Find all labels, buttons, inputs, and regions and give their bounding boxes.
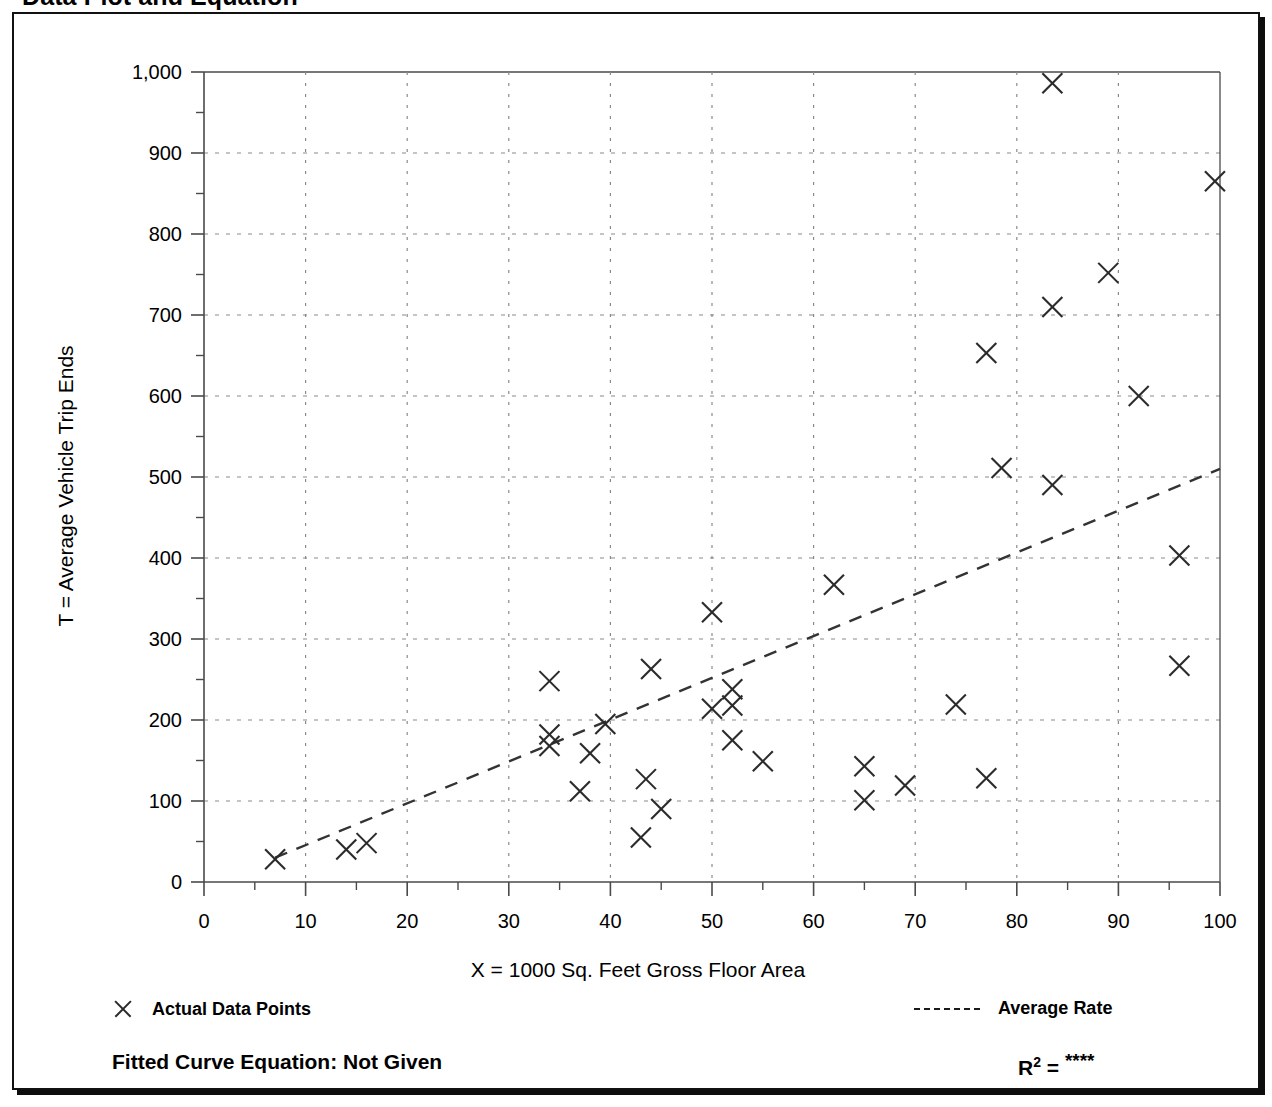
svg-text:900: 900 — [149, 142, 182, 164]
data-point-marker — [702, 602, 722, 622]
svg-text:700: 700 — [149, 304, 182, 326]
axis-ticks — [191, 72, 1220, 896]
plot-area: 01002003004005006007008009001,000 010203… — [14, 14, 1262, 1092]
y-axis-title: T = Average Vehicle Trip Ends — [54, 206, 78, 766]
data-point-marker — [539, 736, 559, 756]
data-point-marker — [1042, 475, 1062, 495]
data-point-marker — [1169, 656, 1189, 676]
scatter-plot-svg: 01002003004005006007008009001,000 010203… — [14, 14, 1262, 1092]
equation-row: Fitted Curve Equation: Not Given R2 = **… — [14, 1050, 1262, 1090]
svg-text:600: 600 — [149, 385, 182, 407]
svg-text:500: 500 — [149, 466, 182, 488]
average-rate-trendline — [275, 469, 1220, 858]
r-squared-exponent: 2 — [1033, 1054, 1041, 1070]
svg-text:1,000: 1,000 — [132, 61, 182, 83]
dashed-line-icon — [914, 1008, 980, 1010]
data-point-marker — [580, 743, 600, 763]
data-point-markers — [265, 73, 1225, 869]
data-point-marker — [854, 790, 874, 810]
legend-item-average-rate: Average Rate — [914, 998, 1112, 1019]
data-point-marker — [631, 827, 651, 847]
data-point-marker — [895, 776, 915, 796]
svg-text:80: 80 — [1006, 910, 1028, 932]
svg-text:100: 100 — [1203, 910, 1236, 932]
svg-text:50: 50 — [701, 910, 723, 932]
data-point-marker — [1042, 297, 1062, 317]
svg-text:70: 70 — [904, 910, 926, 932]
data-point-marker — [824, 575, 844, 595]
r-squared-stars: **** — [1065, 1050, 1095, 1071]
x-axis-title: X = 1000 Sq. Feet Gross Floor Area — [14, 958, 1262, 982]
figure-frame: 01002003004005006007008009001,000 010203… — [12, 12, 1260, 1090]
r-squared-equals: = — [1041, 1056, 1065, 1079]
legend-label-average-rate: Average Rate — [998, 998, 1112, 1019]
data-point-marker — [722, 679, 742, 699]
data-point-marker — [539, 671, 559, 691]
r-squared-value: R2 = **** — [1018, 1050, 1094, 1080]
data-point-marker — [641, 659, 661, 679]
svg-text:0: 0 — [171, 871, 182, 893]
gridlines — [204, 72, 1220, 882]
data-point-marker — [539, 725, 559, 745]
svg-text:400: 400 — [149, 547, 182, 569]
data-point-marker — [651, 799, 671, 819]
data-point-marker — [1098, 263, 1118, 283]
svg-text:100: 100 — [149, 790, 182, 812]
data-point-marker — [722, 695, 742, 715]
x-axis-tick-labels: 0102030405060708090100 — [198, 910, 1236, 932]
x-marker-icon — [112, 998, 134, 1020]
data-point-marker — [854, 756, 874, 776]
y-axis-tick-labels: 01002003004005006007008009001,000 — [132, 61, 182, 893]
fitted-curve-equation: Fitted Curve Equation: Not Given — [112, 1050, 442, 1074]
data-point-marker — [357, 833, 377, 853]
legend-label-actual-data-points: Actual Data Points — [152, 999, 311, 1020]
data-point-marker — [946, 695, 966, 715]
data-point-marker — [265, 849, 285, 869]
svg-text:0: 0 — [198, 910, 209, 932]
legend-item-actual-data-points: Actual Data Points — [112, 998, 311, 1020]
svg-text:300: 300 — [149, 628, 182, 650]
data-point-marker — [976, 343, 996, 363]
data-point-marker — [336, 840, 356, 860]
data-point-marker — [1169, 546, 1189, 566]
svg-text:200: 200 — [149, 709, 182, 731]
r-squared-base: R — [1018, 1056, 1033, 1079]
data-point-marker — [1042, 73, 1062, 93]
data-point-marker — [570, 781, 590, 801]
svg-text:800: 800 — [149, 223, 182, 245]
data-point-marker — [753, 751, 773, 771]
data-point-marker — [722, 730, 742, 750]
legend: Actual Data Points Average Rate — [14, 998, 1262, 1038]
page-title: Data Plot and Equation — [22, 0, 298, 11]
data-point-marker — [1205, 171, 1225, 191]
data-point-marker — [992, 458, 1012, 478]
data-point-marker — [636, 769, 656, 789]
svg-text:40: 40 — [599, 910, 621, 932]
svg-text:10: 10 — [294, 910, 316, 932]
svg-text:20: 20 — [396, 910, 418, 932]
data-point-marker — [976, 768, 996, 788]
svg-text:90: 90 — [1107, 910, 1129, 932]
svg-text:30: 30 — [498, 910, 520, 932]
svg-text:60: 60 — [802, 910, 824, 932]
